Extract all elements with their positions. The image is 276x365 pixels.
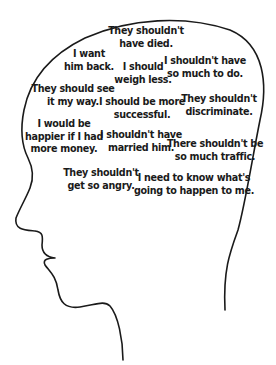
thought-line: discriminate. [181, 106, 257, 119]
thought-shouldnt-discriminate: They shouldn't discriminate. [181, 93, 257, 118]
thought-line: so much to do. [164, 68, 246, 81]
thought-line: I shouldn't have [164, 55, 246, 68]
thought-more-successful: I should be more successful. [99, 96, 185, 121]
thought-i-want-him-back: I want him back. [64, 48, 114, 73]
thought-line: so much traffic. [167, 151, 263, 164]
thought-line: I want [64, 48, 114, 61]
thought-so-much-traffic: There shouldn't be so much traffic. [167, 138, 263, 163]
thought-line: They shouldn't [181, 93, 257, 106]
thought-line: going to happen to me. [134, 185, 254, 198]
thought-line: happier if I had [25, 131, 103, 144]
thought-line: There shouldn't be [167, 138, 263, 151]
thought-line: get so angry. [63, 180, 139, 193]
thought-line: more money. [25, 143, 103, 156]
thought-line: successful. [99, 109, 185, 122]
thought-line: I would be [25, 118, 103, 131]
thought-line: I should be more [99, 96, 185, 109]
thought-they-shouldnt-have-died: They shouldn't have died. [108, 25, 184, 50]
thought-need-to-know: I need to know what's going to happen to… [134, 172, 254, 197]
thought-line: have died. [108, 38, 184, 51]
thought-line: him back. [64, 61, 114, 74]
thought-line: They shouldn't [63, 167, 139, 180]
thought-get-so-angry: They shouldn't get so angry. [63, 167, 139, 192]
thought-line: I need to know what's [134, 172, 254, 185]
thought-line: They shouldn't [108, 25, 184, 38]
thought-so-much-to-do: I shouldn't have so much to do. [164, 55, 246, 80]
thought-line: They should see [31, 83, 114, 96]
thought-more-money: I would be happier if I had more money. [25, 118, 103, 156]
